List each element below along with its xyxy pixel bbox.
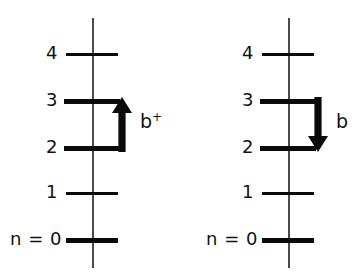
down-arrow-icon: [308, 97, 328, 152]
level-label-2: 2: [22, 138, 58, 156]
level-line-0: [262, 238, 314, 243]
level-line-4: [66, 53, 118, 56]
level-label-0: n = 0: [10, 230, 58, 248]
level-line-4: [262, 53, 314, 56]
operator-base: b: [336, 110, 348, 132]
operator-label-annihilation: b: [336, 112, 348, 131]
up-arrow-icon: [112, 97, 132, 152]
operator-label-creation: b+: [140, 112, 162, 131]
level-label-1: 1: [22, 183, 58, 201]
level-label-2: 2: [218, 138, 254, 156]
quantum-number-axis: [288, 18, 290, 268]
ladder-panel-annihilation: 4 3 2 1 n = 0 b: [181, 0, 361, 272]
level-line-1: [66, 192, 118, 195]
annihilation-arrow: [308, 97, 328, 152]
level-line-0: [66, 238, 118, 243]
ladder-panel-creation: 4 3 2 1 n = 0 b+: [0, 0, 180, 272]
level-line-1: [262, 192, 314, 195]
level-label-4: 4: [22, 44, 58, 62]
level-label-4: 4: [218, 44, 254, 62]
energy-level-ladder-figure: 4 3 2 1 n = 0 b+ 4 3 2 1 n = 0: [0, 0, 361, 272]
quantum-number-axis: [92, 18, 94, 268]
level-label-3: 3: [22, 91, 58, 109]
level-label-0: n = 0: [206, 230, 254, 248]
operator-superscript: +: [152, 110, 162, 124]
level-label-1: 1: [218, 183, 254, 201]
operator-base: b: [140, 110, 152, 132]
level-label-3: 3: [218, 91, 254, 109]
creation-arrow: [112, 97, 132, 152]
